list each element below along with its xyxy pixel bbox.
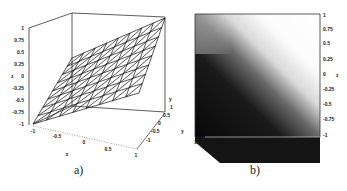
z-tick: 0 [21, 73, 24, 79]
y-axis-label: y [169, 96, 172, 102]
y-axis-ticks: -1 -0.5 0 0.5 1 y [146, 96, 173, 143]
x-tick: 0 [83, 139, 86, 145]
z-tick: 0 [323, 71, 326, 77]
z-tick: 0.25 [323, 56, 333, 62]
y-tick: -0.5 [151, 128, 160, 134]
z-tick: -0.75 [13, 109, 25, 115]
z-tick: -0.25 [13, 85, 25, 91]
z-axis-ticks: 1 0.75 0.5 0.25 0 -0.25 -0.5 -0.75 -1 z [11, 25, 24, 127]
z-axis-ticks: 1 0.75 0.5 0.25 0 -0.25 -0.5 -0.75 -1 z [323, 12, 339, 138]
x-tick: -1 [31, 128, 36, 134]
plot-box [29, 13, 165, 125]
z-tick: -1 [323, 132, 328, 138]
y-tick: 0 [158, 120, 161, 126]
x-tick: 1 [135, 152, 138, 158]
z-tick: 0.25 [14, 61, 24, 67]
z-tick: -0.75 [323, 116, 335, 122]
y-tick: 0.5 [163, 112, 170, 118]
caption-a: a) [74, 163, 83, 178]
z-tick: 0.5 [17, 49, 24, 55]
x-axis-ticks: -1 -0.5 0 0.5 1 x [31, 128, 138, 158]
y-axis-label: y [181, 128, 184, 134]
shaded-plot-canvas: 1 0.75 0.5 0.25 0 -0.25 -0.5 -0.75 -1 z … [175, 0, 347, 191]
figure-b-shaded-plot: 1 0.75 0.5 0.25 0 -0.25 -0.5 -0.75 -1 z … [175, 0, 347, 191]
corner-tick: 1 [194, 139, 197, 145]
z-tick: 0.75 [323, 26, 333, 32]
x-tick: 0.5 [105, 146, 112, 152]
z-tick: -0.25 [323, 86, 335, 92]
y-tick: 1 [170, 104, 173, 110]
z-axis-label: z [11, 73, 14, 79]
x-tick: -0.5 [53, 133, 62, 139]
figure-a-wireframe-plot: 1 0.75 0.5 0.25 0 -0.25 -0.5 -0.75 -1 z … [0, 0, 175, 191]
z-tick: -0.5 [15, 97, 24, 103]
caption-b: b) [250, 163, 260, 178]
x-axis-label: x [66, 151, 69, 157]
y-tick: -1 [146, 137, 151, 143]
z-tick: -1 [20, 121, 25, 127]
surface-side-face [195, 137, 320, 163]
wireframe-plot-canvas: 1 0.75 0.5 0.25 0 -0.25 -0.5 -0.75 -1 z … [0, 0, 175, 191]
z-tick: 0.5 [323, 40, 330, 46]
z-tick: -0.5 [323, 101, 332, 107]
z-tick: 1 [323, 12, 326, 18]
z-axis-label: z [336, 72, 339, 78]
z-tick: 1 [21, 25, 24, 31]
z-tick: 0.75 [14, 37, 24, 43]
